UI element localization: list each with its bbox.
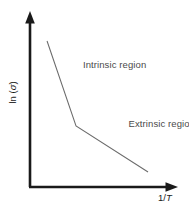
x-axis-arrowhead-icon: [166, 182, 179, 192]
figure-root: ln (σ) 1/T Intrinsic region Extrinsic re…: [0, 0, 189, 209]
x-axis-title-symbol: T: [166, 192, 172, 203]
intrinsic-region-label: Intrinsic region: [83, 60, 146, 70]
extrinsic-region-label: Extrinsic region: [129, 119, 190, 129]
y-axis-title-symbol: σ: [7, 85, 18, 91]
y-axis-title-prefix: ln (: [7, 90, 18, 103]
plot-canvas: [0, 0, 189, 209]
y-axis-title: ln (σ): [7, 81, 18, 105]
x-axis-title: 1/T: [158, 193, 172, 203]
x-axis-title-prefix: 1/: [158, 192, 166, 203]
y-axis-title-suffix: ): [7, 81, 18, 84]
y-axis-arrowhead-icon: [25, 11, 35, 24]
y-axis-title-container: ln (σ): [0, 0, 26, 187]
